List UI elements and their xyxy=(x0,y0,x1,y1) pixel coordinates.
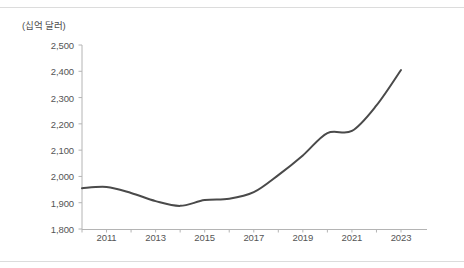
y-axis-tick-label: 1,900 xyxy=(24,197,74,208)
x-axis-tick-label: 2021 xyxy=(330,232,374,243)
y-axis-tick-label: 2,000 xyxy=(24,171,74,182)
x-axis-tick-label: 2011 xyxy=(85,232,129,243)
y-axis-tick-label: 2,100 xyxy=(24,145,74,156)
y-axis-tick-label: 2,200 xyxy=(24,118,74,129)
chart-figure: (십억 달러) 2,5002,4002,3002,2002,1002,0001,… xyxy=(0,0,464,268)
x-axis-tick-label: 2023 xyxy=(379,232,423,243)
axis-lines xyxy=(82,45,427,230)
y-axis-tick-label: 2,300 xyxy=(24,92,74,103)
x-axis-tick-label: 2015 xyxy=(183,232,227,243)
y-axis-tick-label: 2,400 xyxy=(24,66,74,77)
y-axis-tick-label: 1,800 xyxy=(24,224,74,235)
x-axis-tick-label: 2019 xyxy=(281,232,325,243)
x-axis-tick-label: 2013 xyxy=(134,232,178,243)
y-axis-ticks xyxy=(79,45,83,229)
x-axis-tick-label: 2017 xyxy=(232,232,276,243)
data-series-line xyxy=(82,70,401,206)
y-axis-tick-label: 2,500 xyxy=(24,40,74,51)
